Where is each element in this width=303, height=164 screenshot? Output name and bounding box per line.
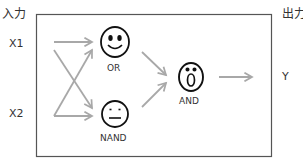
- input-x1-label: X1: [9, 37, 24, 50]
- gate-label-nand: NAND: [100, 133, 127, 143]
- smile-face-icon: [101, 27, 129, 57]
- input-arrows: [54, 42, 252, 116]
- surprised-face-icon: [179, 63, 203, 91]
- output-y-label: Y: [282, 70, 289, 83]
- neutral-face-icon: [102, 101, 128, 127]
- input-x2-label: X2: [9, 107, 24, 120]
- arrow-or-to-and: [142, 52, 166, 75]
- gate-label-and: AND: [179, 96, 199, 106]
- input-header: 入力: [2, 4, 26, 21]
- output-header: 出力: [282, 4, 303, 21]
- gate-label-or: OR: [107, 63, 120, 73]
- xor-gate-diagram: [0, 0, 303, 164]
- arrow-nand-to-and: [142, 83, 166, 107]
